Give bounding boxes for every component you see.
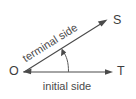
vertex-label-o: O	[9, 64, 19, 78]
angle-arc-path	[63, 52, 68, 72]
initial-ray-arrowhead-icon	[105, 69, 113, 74]
initial-side-label: initial side	[43, 80, 91, 92]
angle-diagram: O S T terminal side initial side	[0, 0, 136, 99]
endpoint-label-t: T	[117, 64, 125, 78]
angle-arc	[61, 48, 69, 71]
diagram-canvas: O S T terminal side initial side	[0, 0, 136, 99]
endpoint-label-s: S	[113, 13, 121, 27]
